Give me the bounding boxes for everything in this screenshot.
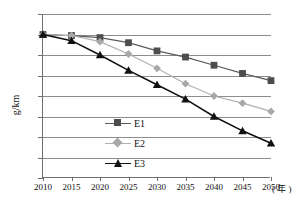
marker-triangle xyxy=(210,112,218,120)
marker-triangle xyxy=(181,95,189,103)
legend: E1 E2 E3 xyxy=(105,113,165,173)
x-axis-tick-label: 2010 xyxy=(34,182,52,192)
marker-diamond xyxy=(153,64,161,72)
marker-triangle xyxy=(238,127,246,135)
marker-diamond xyxy=(182,80,190,88)
marker-triangle xyxy=(153,81,161,89)
plot-area: 20406080100120140160180 2010201520202025… xyxy=(42,14,270,178)
legend-item-e3[interactable]: E3 xyxy=(105,153,165,173)
legend-label-e1: E1 xyxy=(134,118,145,129)
marker-diamond xyxy=(210,92,218,100)
marker-square xyxy=(239,70,246,77)
legend-swatch-e3 xyxy=(105,157,131,169)
x-axis-tick-label: 2030 xyxy=(148,182,166,192)
x-axis-tick-label: 2025 xyxy=(120,182,138,192)
legend-item-e1[interactable]: E1 xyxy=(105,113,165,133)
marker-diamond xyxy=(239,99,247,107)
marker-square xyxy=(211,62,218,69)
marker-diamond xyxy=(125,50,133,58)
chart-container: g/km 20406080100120140160180 20102015202… xyxy=(0,0,300,210)
x-axis-tick-label: 2040 xyxy=(205,182,223,192)
x-axis-unit-label: ( 年 ) xyxy=(272,182,292,195)
marker-triangle xyxy=(124,66,132,74)
y-axis-title: g/km xyxy=(10,95,21,116)
x-axis-tick-label: 2045 xyxy=(234,182,252,192)
marker-square xyxy=(125,39,132,46)
x-axis-tick-label: 2035 xyxy=(177,182,195,192)
marker-triangle xyxy=(96,51,104,59)
marker-square xyxy=(154,48,161,55)
marker-square xyxy=(268,77,275,84)
x-axis-tick-label: 2020 xyxy=(91,182,109,192)
series-e1 xyxy=(40,31,275,84)
legend-label-e3: E3 xyxy=(134,158,145,169)
marker-diamond xyxy=(267,107,275,115)
x-axis-tick xyxy=(271,177,272,181)
x-axis-tick-label: 2015 xyxy=(63,182,81,192)
legend-label-e2: E2 xyxy=(134,138,145,149)
series-line xyxy=(43,35,271,81)
legend-swatch-e1 xyxy=(105,117,131,129)
series-line xyxy=(43,35,271,112)
legend-swatch-e2 xyxy=(105,137,131,149)
marker-square xyxy=(182,54,189,61)
legend-item-e2[interactable]: E2 xyxy=(105,133,165,153)
